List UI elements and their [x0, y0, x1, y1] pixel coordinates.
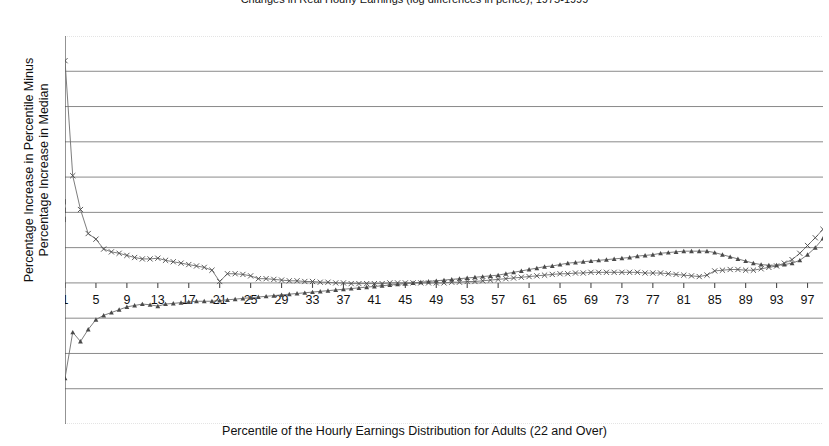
- data-point-marker: [124, 253, 129, 258]
- chart-title: Changes in Real Hourly Earnings (log dif…: [0, 0, 829, 5]
- plot-area: 35302520151050-5-10-15-20159131721252933…: [65, 36, 823, 424]
- y-axis-label: Percentage Increase in Percentile Minus …: [22, 40, 52, 300]
- y-axis-label-line1: Percentage Increase in Percentile Minus: [22, 40, 37, 300]
- x-axis-tick-label: 93: [770, 293, 784, 307]
- series-line-1: [65, 238, 823, 378]
- data-point-marker: [820, 227, 823, 232]
- data-point-marker: [797, 251, 802, 256]
- x-axis-tick-label: 97: [801, 293, 815, 307]
- x-axis-tick-label: 1: [65, 293, 69, 307]
- x-axis-tick-label: 89: [739, 293, 753, 307]
- data-point-marker: [93, 237, 98, 242]
- x-axis-tick-label: 33: [306, 293, 320, 307]
- x-axis-tick-label: 65: [553, 293, 567, 307]
- x-axis-label: Percentile of the Hourly Earnings Distri…: [0, 424, 829, 438]
- x-axis-tick-label: 73: [615, 293, 629, 307]
- x-axis-tick-label: 81: [677, 293, 691, 307]
- x-axis-tick-label: 37: [336, 293, 350, 307]
- chart-canvas: 35302520151050-5-10-15-20159131721252933…: [65, 36, 823, 424]
- x-axis-tick-label: 5: [92, 293, 99, 307]
- series-line-0: [65, 61, 823, 284]
- x-axis-tick-label: 41: [367, 293, 381, 307]
- y-axis-label-line2: Percentage Increase in Median: [37, 40, 52, 300]
- x-axis-tick-label: 77: [646, 293, 660, 307]
- x-axis-tick-label: 69: [584, 293, 598, 307]
- data-point-marker: [821, 236, 823, 240]
- x-axis-tick-label: 61: [522, 293, 536, 307]
- data-point-marker: [209, 268, 214, 273]
- x-axis-tick-label: 57: [491, 293, 505, 307]
- data-point-marker: [86, 231, 91, 236]
- data-point-marker: [813, 235, 818, 240]
- x-axis-tick-label: 45: [398, 293, 412, 307]
- x-axis-tick-label: 53: [460, 293, 474, 307]
- x-axis-tick-label: 49: [429, 293, 443, 307]
- chart-root: Changes in Real Hourly Earnings (log dif…: [0, 0, 829, 446]
- x-axis-tick-label: 25: [244, 293, 258, 307]
- data-point-marker: [70, 330, 75, 334]
- x-axis-tick-label: 85: [708, 293, 722, 307]
